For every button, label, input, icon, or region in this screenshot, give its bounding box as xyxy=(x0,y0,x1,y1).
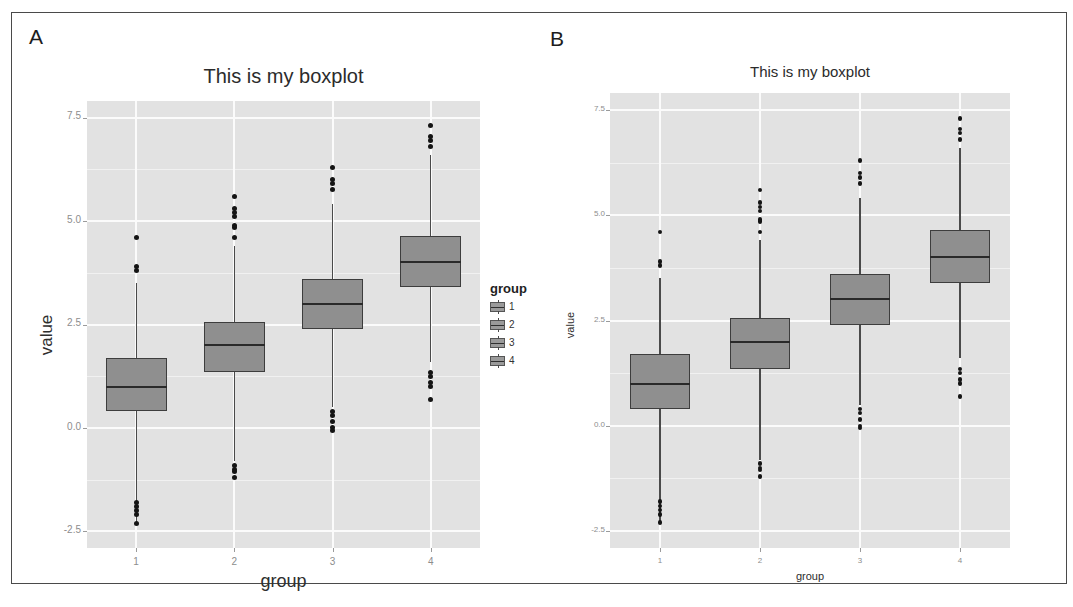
y-tick-label: 5.0 xyxy=(571,209,605,218)
outlier-point xyxy=(758,474,763,479)
x-axis-label-a: group xyxy=(87,571,480,592)
outlier-point xyxy=(232,469,237,474)
median-line xyxy=(630,383,690,385)
outlier-point xyxy=(134,521,139,526)
legend-a: group 1234 xyxy=(490,281,527,371)
y-tick-mark xyxy=(83,118,87,119)
box xyxy=(630,354,690,409)
y-tick-label: -2.5 xyxy=(47,524,81,535)
y-tick-label: 0.0 xyxy=(47,421,81,432)
x-tick-mark xyxy=(860,548,861,552)
x-tick-label: 3 xyxy=(313,556,353,567)
legend-entries-a: 1234 xyxy=(490,299,527,368)
legend-item[interactable]: 2 xyxy=(490,317,527,332)
median-line xyxy=(106,386,167,388)
gridline-y xyxy=(610,109,1010,111)
gridline-y-minor xyxy=(610,478,1010,479)
box xyxy=(106,358,167,412)
median-line xyxy=(400,261,461,263)
legend-item-label: 1 xyxy=(509,301,515,312)
x-tick-label: 4 xyxy=(940,556,980,565)
y-tick-label: 7.5 xyxy=(571,104,605,113)
outlier-point xyxy=(428,397,433,402)
x-tick-mark xyxy=(660,548,661,552)
y-tick-label: 7.5 xyxy=(47,110,81,121)
gridline-y-minor xyxy=(610,163,1010,164)
outlier-point xyxy=(134,235,139,240)
legend-key-box-icon xyxy=(490,320,505,330)
legend-title-a: group xyxy=(490,281,527,296)
legend-item-label: 3 xyxy=(509,337,515,348)
plot-title-a: This is my boxplot xyxy=(87,65,480,88)
y-tick-label: 5.0 xyxy=(47,214,81,225)
median-line xyxy=(302,303,363,305)
y-tick-label: 2.5 xyxy=(571,315,605,324)
outlier-point xyxy=(858,158,863,163)
x-tick-mark xyxy=(760,548,761,552)
outlier-point xyxy=(658,512,663,517)
legend-item[interactable]: 4 xyxy=(490,353,527,368)
median-line xyxy=(204,344,265,346)
y-axis-label-a: value xyxy=(37,305,57,365)
y-axis-label-b: value xyxy=(564,295,576,355)
panel-letter-b: B xyxy=(550,27,564,51)
median-line xyxy=(930,256,990,258)
y-tick-mark xyxy=(83,325,87,326)
x-tick-mark xyxy=(136,548,137,552)
figure-frame: A This is my boxplot value group 7.55.02… xyxy=(11,12,1067,584)
gridline-y xyxy=(87,530,480,532)
median-line xyxy=(830,298,890,300)
y-tick-mark xyxy=(606,426,610,427)
legend-key-median-icon xyxy=(491,307,504,308)
legend-key-median-icon xyxy=(491,325,504,326)
outlier-point xyxy=(232,475,237,480)
outlier-point xyxy=(758,219,763,224)
x-tick-mark xyxy=(960,548,961,552)
y-tick-mark xyxy=(83,531,87,532)
outlier-point xyxy=(330,428,335,433)
legend-item[interactable]: 3 xyxy=(490,335,527,350)
y-tick-mark xyxy=(606,215,610,216)
gridline-y xyxy=(87,220,480,222)
outlier-point xyxy=(134,268,139,273)
gridline-y xyxy=(610,425,1010,427)
x-tick-label: 2 xyxy=(740,556,780,565)
legend-item-label: 2 xyxy=(509,319,515,330)
legend-item-label: 4 xyxy=(509,355,515,366)
x-tick-label: 1 xyxy=(640,556,680,565)
x-tick-mark xyxy=(333,548,334,552)
y-tick-label: 0.0 xyxy=(571,420,605,429)
y-tick-mark xyxy=(606,531,610,532)
legend-key-box-icon xyxy=(490,356,505,366)
gridline-y xyxy=(610,320,1010,322)
x-tick-mark xyxy=(431,548,432,552)
outlier-point xyxy=(858,175,863,180)
outlier-point xyxy=(858,181,863,186)
y-tick-mark xyxy=(83,428,87,429)
legend-item[interactable]: 1 xyxy=(490,299,527,314)
outlier-point xyxy=(958,137,963,142)
legend-key-box-icon xyxy=(490,302,505,312)
gridline-y xyxy=(87,427,480,429)
gridline-y-minor xyxy=(87,169,480,170)
legend-key-box-icon xyxy=(490,338,505,348)
box xyxy=(204,322,265,372)
x-tick-label: 3 xyxy=(840,556,880,565)
gridline-y xyxy=(610,530,1010,532)
plot-title-b: This is my boxplot xyxy=(610,63,1010,80)
panel-letter-a: A xyxy=(29,25,43,49)
median-line xyxy=(730,341,790,343)
outlier-point xyxy=(958,116,963,121)
gridline-y xyxy=(87,117,480,119)
y-tick-label: 2.5 xyxy=(47,317,81,328)
x-tick-label: 4 xyxy=(411,556,451,567)
outlier-point xyxy=(330,165,335,170)
y-tick-label: -2.5 xyxy=(571,525,605,534)
gridline-y xyxy=(87,324,480,326)
figure-panel-b: B This is my boxplot value group 7.55.02… xyxy=(538,13,1068,583)
caption-strip xyxy=(160,592,920,604)
plot-area-a xyxy=(87,101,480,548)
gridline-y-minor xyxy=(87,480,480,481)
plot-area-b xyxy=(610,93,1010,548)
y-tick-mark xyxy=(83,221,87,222)
